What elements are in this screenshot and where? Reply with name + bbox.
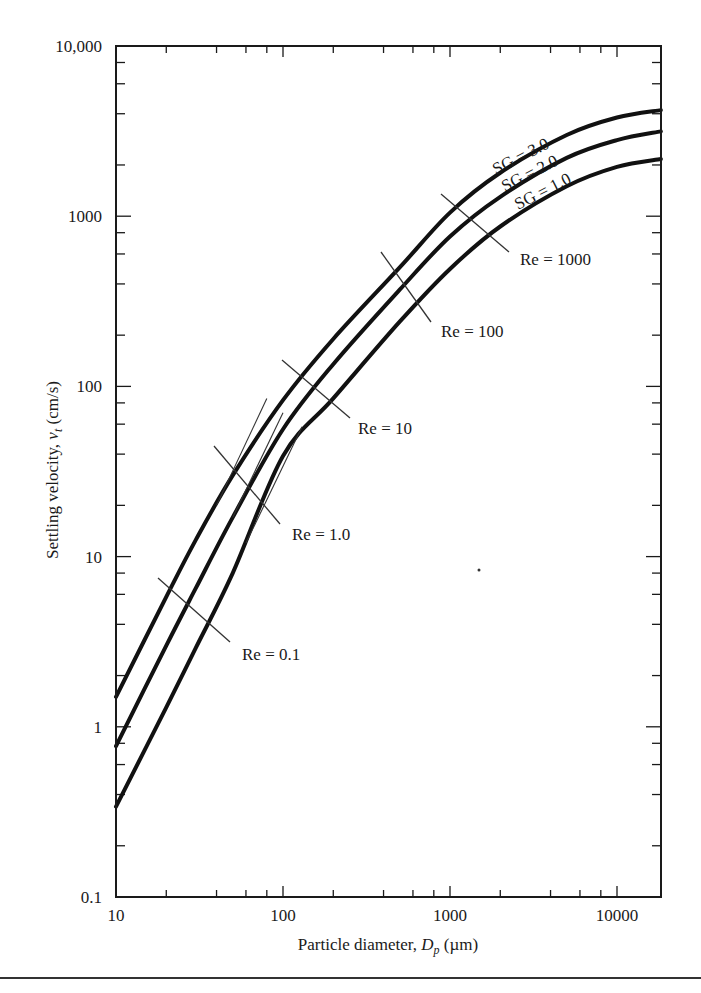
settling-velocity-chart: 101001000100000.1110100100010,000 Re = 0…	[0, 0, 701, 993]
y-tick-label: 10	[85, 548, 102, 567]
x-tick-label: 100	[270, 906, 296, 925]
re-label: Re = 1.0	[292, 525, 350, 544]
re-label: Re = 100	[441, 322, 503, 341]
y-tick-label: 1000	[68, 207, 102, 226]
page-bottom-rule	[0, 977, 701, 979]
re-label: Re = 1000	[520, 250, 591, 269]
y-tick-label: 0.1	[81, 888, 102, 907]
re-marker-line	[441, 194, 509, 252]
sg-curves	[116, 110, 661, 806]
x-tick-label: 1000	[433, 906, 467, 925]
y-tick-label: 100	[77, 377, 103, 396]
series-labels: SG = 3.0SG = 2.0SG = 1.0	[489, 134, 574, 214]
curve-30	[116, 110, 661, 697]
x-tick-label: 10	[108, 906, 125, 925]
stokes-tangent-line	[217, 398, 267, 505]
stray-dot	[478, 569, 481, 572]
curve-20	[116, 131, 661, 746]
re-label: Re = 0.1	[242, 645, 300, 664]
axis-ticks	[116, 46, 661, 897]
y-axis-title: Settling velocity, vt (cm/s)	[43, 381, 65, 559]
y-tick-label: 10,000	[55, 37, 102, 56]
x-axis-title: Particle diameter, Dp (µm)	[298, 935, 478, 957]
x-tick-label: 10000	[596, 906, 639, 925]
re-label: Re = 10	[358, 419, 412, 438]
plot-frame	[116, 46, 661, 897]
y-tick-label: 1	[94, 718, 103, 737]
